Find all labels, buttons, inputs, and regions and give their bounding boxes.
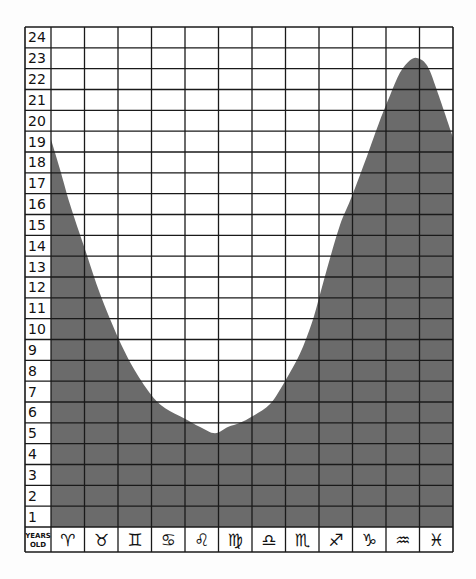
zodiac-gemini-icon: ♊︎ (127, 530, 142, 550)
zodiac-scorpio-icon: ♏︎ (295, 530, 310, 550)
y-tick-label: 3 (28, 467, 37, 483)
age-area-chart: 123456789101112131415161718192021222324 … (0, 0, 476, 579)
y-tick-label: 21 (28, 92, 46, 108)
y-tick-label: 20 (28, 113, 46, 129)
y-tick-label: 2 (28, 488, 37, 504)
zodiac-virgo-icon: ♍︎ (228, 530, 243, 550)
y-tick-label: 16 (28, 196, 46, 212)
corner-label-line1: YEARS (24, 532, 51, 540)
corner-label-line2: OLD (30, 541, 46, 549)
y-tick-label: 19 (28, 134, 46, 150)
y-tick-label: 17 (28, 175, 46, 191)
zodiac-libra-icon: ♎︎ (261, 530, 276, 550)
y-tick-label: 14 (28, 238, 46, 254)
y-tick-label: 1 (28, 509, 37, 525)
y-tick-label: 24 (28, 29, 46, 45)
y-tick-label: 10 (28, 321, 46, 337)
zodiac-leo-icon: ♌︎ (194, 530, 209, 550)
zodiac-aries-icon: ♈︎ (60, 530, 75, 550)
y-tick-label: 5 (28, 425, 37, 441)
y-tick-label: 12 (28, 279, 46, 295)
y-tick-label: 22 (28, 71, 46, 87)
y-tick-label: 13 (28, 259, 46, 275)
zodiac-aquarius-icon: ♒︎ (395, 530, 410, 550)
y-tick-label: 7 (28, 384, 37, 400)
zodiac-taurus-icon: ♉︎ (94, 530, 109, 550)
y-tick-label: 18 (28, 154, 46, 170)
y-tick-label: 9 (28, 342, 37, 358)
zodiac-capricorn-icon: ♑︎ (362, 530, 377, 550)
y-tick-label: 11 (28, 300, 46, 316)
y-tick-label: 6 (28, 404, 37, 420)
zodiac-sagittarius-icon: ♐︎ (328, 530, 343, 550)
zodiac-pisces-icon: ♓︎ (429, 530, 444, 550)
y-tick-label: 23 (28, 50, 46, 66)
y-tick-label: 8 (28, 363, 37, 379)
y-tick-label: 4 (28, 446, 37, 462)
zodiac-cancer-icon: ♋︎ (161, 530, 176, 550)
y-tick-label: 15 (28, 217, 46, 233)
